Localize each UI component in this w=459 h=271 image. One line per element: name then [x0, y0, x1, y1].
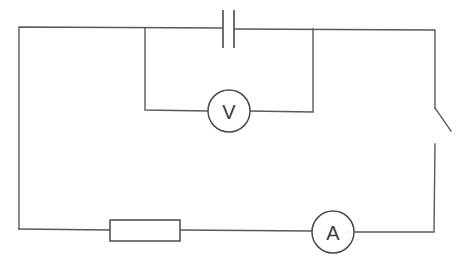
wire-voltmeter-right [250, 29, 313, 112]
wire-voltmeter-left [145, 28, 208, 111]
wire-top-right [235, 29, 435, 108]
ammeter-label: A [326, 222, 340, 244]
ammeter: A [312, 211, 354, 253]
resistor-body [110, 220, 180, 241]
resistor [110, 220, 180, 241]
voltmeter-label: V [222, 101, 236, 123]
wire-right-bottom [355, 144, 435, 232]
switch [435, 108, 451, 131]
wire-top-left [19, 27, 222, 229]
switch-blade [435, 108, 451, 131]
wire-ammeter-resistor [180, 230, 312, 231]
wire-resistor-left [19, 229, 110, 230]
voltmeter: V [208, 90, 250, 132]
circuit-diagram: V A [0, 0, 459, 271]
capacitor [223, 10, 234, 48]
